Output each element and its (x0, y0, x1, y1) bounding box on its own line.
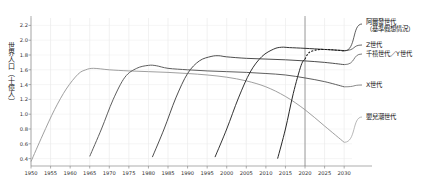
y-axis-tick-label: 2.2 (6, 22, 28, 28)
y-axis-tick-label: 1.2 (6, 96, 28, 102)
y-axis-tick-label: 1.4 (6, 82, 28, 88)
y-axis-tick-label: 1.0 (6, 111, 28, 117)
legend-leader-line-千禧世代／Y世代 (344, 54, 362, 65)
y-axis-tick-label: 0.6 (6, 141, 28, 147)
legend-item-genz[interactable]: Z世代 (366, 41, 382, 48)
legend-item-alpha[interactable]: 阿爾發世代（基準假想情況） (366, 18, 414, 33)
legend-item-label: X世代 (366, 81, 382, 88)
y-axis-tick-label: 1.6 (6, 67, 28, 73)
legend-item-millennial[interactable]: 千禧世代／Y世代 (366, 50, 412, 57)
series-line-千禧世代／Y世代 (152, 56, 344, 157)
legend-item-label: Z世代 (366, 41, 382, 48)
legend-leader-line-嬰兒潮世代 (344, 117, 362, 142)
chart-root: 世界人口（十億人） 0.40.60.81.01.21.41.61.82.02.2… (0, 0, 433, 188)
y-axis-tick-label: 0.8 (6, 126, 28, 132)
y-axis-tick-label: 0.4 (6, 156, 28, 162)
legend-item-label: 千禧世代／Y世代 (366, 50, 412, 57)
legend-item-boomer[interactable]: 嬰兒潮世代 (366, 113, 396, 120)
legend-item-genx[interactable]: X世代 (366, 81, 382, 88)
y-axis-tick-label: 1.8 (6, 52, 28, 58)
legend-leader-line-阿爾發世代（基準假想情況） (344, 24, 362, 51)
y-axis-tick-label: 2.0 (6, 37, 28, 43)
legend-leader-line-X世代 (344, 85, 362, 87)
legend-item-label: 嬰兒潮世代 (366, 113, 396, 120)
x-axis-tick-label: 2030 (331, 170, 357, 176)
legend-item-sublabel: （基準假想情況） (366, 25, 414, 32)
legend-leader-line-Z世代 (344, 45, 362, 51)
